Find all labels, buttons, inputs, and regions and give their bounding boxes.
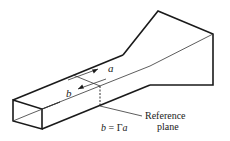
horn-antenna — [123, 11, 213, 85]
reference-plane-label-line2: plane — [157, 121, 179, 132]
reference-plane — [73, 75, 142, 116]
reference-plane-label-line1: Reference — [145, 110, 186, 121]
incident-wave-label: a — [108, 62, 114, 74]
reflected-wave-arrow — [78, 79, 106, 89]
waveguide-diagram: a b b = Γa Reference plane — [0, 0, 230, 141]
waveguide-body — [13, 55, 150, 129]
reflection-equation: b = Γa — [101, 122, 127, 133]
reflected-wave-label: b — [66, 87, 72, 99]
